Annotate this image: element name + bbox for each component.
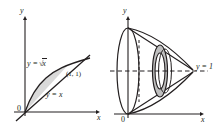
sqrt-curve-radicand: x xyxy=(42,58,47,68)
left-x-axis-label: x xyxy=(97,114,101,122)
right-x-axis-label: x xyxy=(201,116,205,124)
right-origin-label: 0 xyxy=(121,116,125,124)
intersection-point-label: (1, 1) xyxy=(66,71,81,78)
axis-of-revolution-label: y = 1 xyxy=(196,63,213,71)
right-panel-solid-plot: y x 0 y = 1 xyxy=(108,0,216,138)
right-y-axis-label: y xyxy=(123,7,127,15)
line-curve-label: y = x xyxy=(46,91,63,99)
left-origin-label: 0 xyxy=(17,105,21,113)
left-y-axis-label: y xyxy=(20,7,24,15)
left-panel-region-plot: y x 0 y =√x y = x (1, 1) xyxy=(0,0,108,138)
sqrt-curve-label: y =√x xyxy=(27,60,47,68)
left-panel-graphics xyxy=(0,0,108,138)
shaded-region xyxy=(25,65,68,112)
math-figure: y x 0 y =√x y = x (1, 1) xyxy=(0,0,216,138)
radical-symbol-icon: √x xyxy=(38,60,47,68)
sqrt-curve-label-lhs: y = xyxy=(27,59,38,68)
